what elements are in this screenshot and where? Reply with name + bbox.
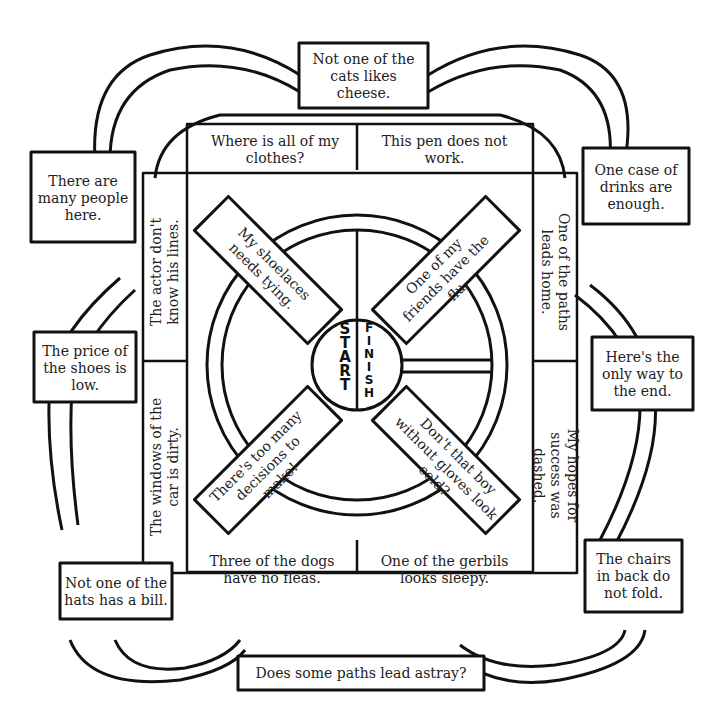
box-upper-right: One case of drinks are enough. — [588, 152, 684, 222]
box-lower-right: The chairs in back do not fold. — [589, 543, 678, 609]
box-bottom: Does some paths lead astray? — [240, 657, 482, 689]
cell-bottom-left: Three of the dogs have no fleas. — [192, 550, 352, 590]
box-top: Not one of the cats likes cheese. — [304, 46, 423, 106]
box-lower-left: Not one of the hats has a bill. — [64, 566, 168, 618]
box-upper-left: There are many people here. — [36, 156, 130, 240]
cell-right-upper: One of the paths leads home. — [538, 207, 572, 337]
cell-top-left: Where is all of my clothes? — [200, 128, 350, 172]
cell-left-upper: The actor don't know his lines. — [148, 207, 182, 337]
cell-top-right: This pen does not work. — [362, 128, 527, 172]
finish-label: FINISH — [362, 322, 376, 400]
cell-bottom-right: One of the gerbils looks sleepy. — [362, 550, 527, 590]
start-label: START — [338, 322, 352, 392]
cell-right-lower: My hopes for success was dashed. — [530, 406, 581, 546]
box-mid-right: Here's the only way to the end. — [596, 340, 689, 408]
box-mid-left: The price of the shoes is low. — [38, 336, 132, 400]
cell-left-lower: The windows of the car is dirty. — [148, 397, 182, 537]
